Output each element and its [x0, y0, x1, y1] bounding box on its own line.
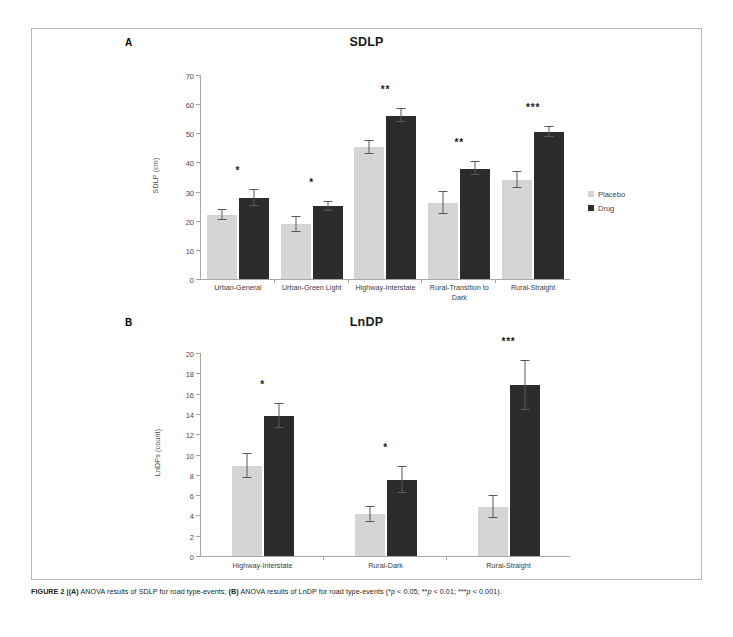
chart-b-y-tick-label: 6: [190, 492, 200, 501]
caption-mid-2: < 0.01; ***: [431, 587, 466, 596]
chart-b-error-cap-top: [520, 360, 529, 361]
chart-a-y-tick-mark: [196, 133, 200, 134]
chart-b-error-cap-bottom: [365, 521, 374, 522]
chart-b-y-tick-label: 4: [190, 512, 200, 521]
chart-a-y-tick-label: 30: [186, 188, 200, 197]
chart-b-error-cap-bottom: [520, 409, 529, 410]
chart-a-y-tick-label: 20: [186, 217, 200, 226]
chart-a-category-label: Rural-Straight: [496, 283, 570, 302]
chart-b-y-tick-label: 18: [186, 370, 200, 379]
caption-text-a: ANOVA results of SDLP for road type-even…: [79, 587, 229, 596]
chart-a-y-tick-label: 0: [190, 276, 200, 285]
panel-a: A SDLP SDLP (cm) 010203040506070 *******…: [32, 35, 701, 307]
chart-b-y-tick-mark: [196, 353, 200, 354]
chart-b-category-tick: [446, 556, 447, 560]
chart-a-significance-marker: **: [455, 138, 464, 148]
chart-a-error-cap-bottom: [249, 205, 258, 206]
chart-a-error-cap-top: [513, 171, 522, 172]
chart-b-y-tick-mark: [196, 455, 200, 456]
chart-b-bar-drug: [387, 480, 417, 556]
chart-b-y-tick-mark: [196, 515, 200, 516]
legend-swatch-drug-icon: [588, 205, 594, 211]
caption-end: < 0.001).: [471, 587, 502, 596]
chart-a-category-label: Urban-Green Light: [275, 283, 349, 302]
chart-b-category-label: Rural-Straight: [447, 561, 570, 571]
chart-b-bar-groups: *****: [201, 353, 570, 556]
chart-a-bar-drug: [239, 198, 269, 279]
chart-a-bar-group: ***: [496, 75, 570, 279]
chart-b-bar-placebo: [478, 507, 508, 556]
chart-a-category-labels: Urban-GeneralUrban-Green LightHighway-In…: [201, 283, 570, 302]
chart-b-y-tick-mark: [196, 394, 200, 395]
chart-b-category-tick: [323, 556, 324, 560]
chart-a-bar-placebo: [354, 147, 384, 279]
chart-b-y-tick-label: 14: [186, 410, 200, 419]
chart-b-bar-drug: [510, 385, 540, 556]
chart-b-y-tick-mark: [196, 495, 200, 496]
chart-b-y-tick-label: 2: [190, 532, 200, 541]
chart-b-category-label: Rural-Dark: [324, 561, 447, 571]
chart-a-error-cap-bottom: [513, 187, 522, 188]
chart-a-significance-marker: ***: [526, 103, 540, 113]
chart-a-significance-marker: **: [381, 85, 390, 95]
chart-b-y-tick-label: 16: [186, 390, 200, 399]
chart-a-error-cap-top: [439, 191, 448, 192]
chart-a-bar-drug: [460, 169, 490, 279]
chart-b-y-tick-label: 12: [186, 431, 200, 440]
chart-b-y-tick-mark: [196, 373, 200, 374]
chart-a-error-cap-top: [397, 108, 406, 109]
chart-b-error-cap-bottom: [397, 492, 406, 493]
chart-a-error-cap-bottom: [545, 136, 554, 137]
panel-a-title: SDLP: [32, 35, 701, 49]
chart-b-error-cap-top: [365, 506, 374, 507]
chart-b-y-tick-label: 0: [190, 553, 200, 562]
chart-b-category-label: Highway-Interstate: [201, 561, 324, 571]
panel-b-title: LnDP: [32, 315, 701, 329]
chart-a-y-tick-label: 40: [186, 159, 200, 168]
chart-b-x-axis: [200, 556, 570, 557]
chart-b-y-tick-label: 20: [186, 350, 200, 359]
figure-caption: FIGURE 2 |(A) ANOVA results of SDLP for …: [31, 586, 702, 597]
chart-a-bar-placebo: [502, 180, 532, 279]
legend-item-drug: Drug: [588, 201, 625, 215]
chart-b-error-bar: [401, 467, 402, 493]
chart-a-error-cap-top: [323, 201, 332, 202]
chart-a-error-cap-bottom: [439, 213, 448, 214]
chart-a-error-bar: [443, 192, 444, 214]
chart-b-y-tick-mark: [196, 434, 200, 435]
chart-b-error-cap-bottom: [242, 477, 251, 478]
chart-a-error-bar: [295, 217, 296, 232]
chart-b-bar-group: *: [201, 353, 324, 556]
chart-a-y-tick-label: 10: [186, 246, 200, 255]
chart-a-error-bar: [517, 172, 518, 188]
chart-a-y-axis-label: SDLP (cm): [152, 157, 159, 193]
chart-a-error-cap-bottom: [397, 121, 406, 122]
chart-a-bar-placebo: [207, 215, 237, 279]
chart-b-significance-marker: *: [260, 380, 265, 390]
caption-tag-a: (A): [69, 587, 79, 596]
chart-a-bar-group: **: [422, 75, 496, 279]
chart-a-y-tick-mark: [196, 192, 200, 193]
chart-a-error-cap-top: [471, 161, 480, 162]
chart-a-error-cap-bottom: [323, 210, 332, 211]
chart-a-error-cap-bottom: [365, 153, 374, 154]
chart-b-bar-drug: [264, 416, 294, 556]
chart-b-error-cap-top: [397, 466, 406, 467]
chart-a-significance-marker: *: [309, 178, 314, 188]
chart-a-significance-marker: *: [236, 166, 241, 176]
chart-b-error-bar: [369, 507, 370, 521]
chart-b-significance-marker: ***: [501, 337, 515, 347]
chart-b-y-tick-mark: [196, 414, 200, 415]
chart-a-bar-placebo: [428, 203, 458, 279]
chart-b-y-tick-mark: [196, 536, 200, 537]
chart-b-bar-placebo: [232, 466, 262, 556]
chart-a-y-tick-label: 50: [186, 130, 200, 139]
chart-b-error-bar: [492, 496, 493, 518]
chart-b-y-tick-mark: [196, 475, 200, 476]
chart-a-bar-placebo: [281, 224, 311, 279]
chart-a-legend: Placebo Drug: [588, 187, 625, 215]
legend-item-placebo: Placebo: [588, 187, 625, 201]
chart-b-y-axis-label: LnDPs (count): [154, 429, 161, 476]
chart-a-bar-drug: [534, 132, 564, 279]
chart-a-error-cap-bottom: [291, 231, 300, 232]
